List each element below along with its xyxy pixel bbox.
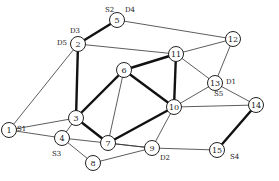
- network-graph: 123456789101112131415 S2D4D3D5S1S3D1S5D2…: [0, 0, 279, 181]
- node-label: 11: [171, 50, 181, 59]
- endpoint-label-d1: D1: [226, 78, 236, 86]
- node-label: 2: [75, 40, 80, 49]
- endpoint-label-d2: D2: [160, 154, 170, 162]
- nodes: 123456789101112131415: [2, 13, 264, 171]
- edge-6-7: [108, 70, 124, 143]
- node-label: 15: [212, 146, 222, 155]
- node-8: 8: [86, 156, 101, 171]
- node-6: 6: [117, 63, 132, 78]
- edge-5-12: [117, 20, 233, 39]
- node-10: 10: [167, 100, 182, 115]
- node-label: 13: [210, 79, 220, 88]
- node-3: 3: [69, 111, 84, 126]
- edge-6-10: [124, 70, 174, 107]
- node-label: 10: [169, 103, 179, 112]
- edge-2-1: [9, 44, 78, 130]
- node-5: 5: [110, 13, 125, 28]
- node-label: 4: [59, 134, 64, 143]
- edge-14-15: [217, 105, 256, 150]
- node-label: 14: [251, 101, 261, 110]
- endpoint-label-s3: S3: [52, 150, 61, 158]
- endpoint-label-d3: D3: [70, 27, 80, 35]
- node-11: 11: [169, 47, 184, 62]
- node-4: 4: [55, 131, 70, 146]
- edge-3-6: [76, 70, 124, 118]
- node-14: 14: [249, 98, 264, 113]
- node-label: 9: [149, 144, 154, 153]
- node-label: 6: [121, 66, 126, 75]
- node-7: 7: [101, 136, 116, 151]
- node-2: 2: [71, 37, 86, 52]
- endpoint-label-d4: D4: [125, 6, 136, 14]
- edge-9-15: [152, 148, 217, 150]
- edge-10-14: [174, 105, 256, 107]
- node-15: 15: [210, 143, 225, 158]
- endpoint-label-s5: S5: [214, 90, 223, 98]
- endpoint-labels: S2D4D3D5S1S3D1S5D2S4: [17, 6, 240, 162]
- edge-2-11: [78, 44, 176, 54]
- endpoint-label-s2: S2: [105, 6, 114, 14]
- edge-2-3: [76, 44, 78, 118]
- node-label: 1: [6, 126, 11, 135]
- node-label: 3: [73, 114, 78, 123]
- endpoint-label-s4: S4: [230, 153, 240, 161]
- node-12: 12: [226, 32, 241, 47]
- edge-8-9: [93, 148, 152, 163]
- node-label: 12: [228, 35, 238, 44]
- endpoint-label-s1: S1: [17, 125, 26, 133]
- node-13: 13: [208, 76, 223, 91]
- endpoint-label-d5: D5: [57, 39, 67, 47]
- node-label: 8: [90, 159, 95, 168]
- node-9: 9: [145, 141, 160, 156]
- edge-11-12: [176, 39, 233, 54]
- edge-6-11: [124, 54, 176, 70]
- node-label: 7: [105, 139, 110, 148]
- node-1: 1: [2, 123, 17, 138]
- node-label: 5: [114, 16, 119, 25]
